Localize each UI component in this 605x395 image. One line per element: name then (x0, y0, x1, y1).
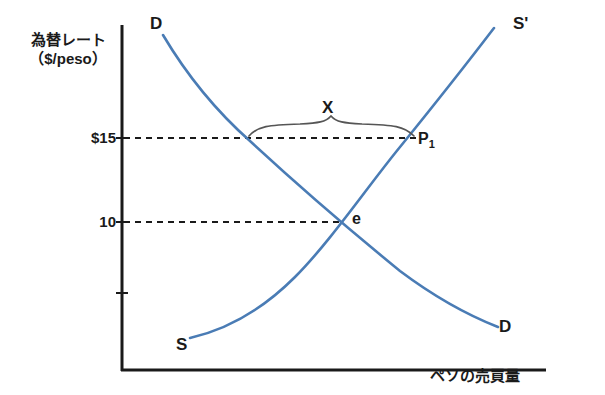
x-axis-title: ペソの売買量 (430, 366, 520, 385)
supply-curve-label-bottom: S (176, 335, 187, 355)
y-axis-title: 為替レート （$/peso） (18, 30, 118, 68)
y-tick-label-15: $15 (60, 129, 116, 146)
demand-curve-label-top: D (150, 14, 162, 34)
price-point-letter: P (418, 130, 429, 147)
demand-curve-label-bottom: D (499, 317, 511, 337)
y-tick-label-10: 10 (60, 213, 116, 230)
demand-curve (163, 35, 498, 327)
equilibrium-point-label: e (352, 210, 361, 228)
price-point-label: P1 (418, 130, 435, 150)
figure-canvas: 為替レート （$/peso） ペソの売買量 $15 10 D S' D S e … (0, 0, 605, 395)
supply-curve-label-top: S' (513, 14, 528, 34)
supply-curve (190, 28, 494, 338)
excess-supply-brace (249, 116, 414, 136)
y-axis-title-line1: 為替レート (18, 30, 118, 49)
excess-supply-label: X (322, 98, 333, 118)
price-point-subscript: 1 (429, 138, 435, 150)
y-axis-title-line2: （$/peso） (18, 49, 118, 68)
